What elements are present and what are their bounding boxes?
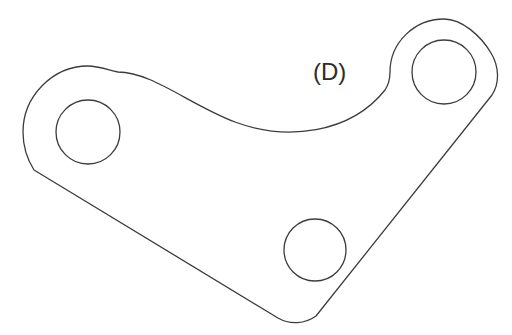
left-hole (56, 100, 120, 164)
technical-drawing-canvas: (D) (0, 0, 512, 335)
callout-label-d: (D) (313, 58, 346, 85)
bracket-drawing: (D) (0, 0, 512, 335)
top-right-hole (412, 40, 476, 104)
bottom-hole (284, 219, 346, 281)
